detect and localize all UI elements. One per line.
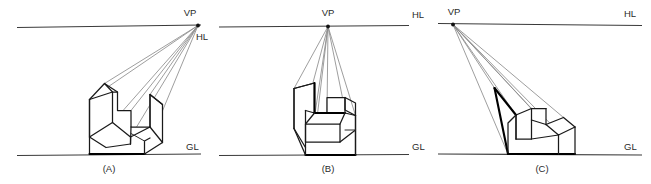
stepped-block-c bbox=[495, 88, 576, 154]
stepped-block-b bbox=[294, 83, 356, 155]
panel-caption-c: (C) bbox=[535, 163, 548, 174]
perspective-figure: VP HL GL (A) bbox=[0, 0, 651, 184]
stepped-block-a bbox=[90, 84, 163, 155]
gl-label-b: GL bbox=[412, 141, 425, 152]
panel-a: VP HL GL (A) bbox=[0, 0, 213, 184]
hl-label-b: HL bbox=[412, 9, 424, 20]
vp-label-c: VP bbox=[448, 6, 461, 17]
vanishing-point-dot-c bbox=[451, 23, 455, 27]
vanishing-point-dot-b bbox=[326, 25, 330, 29]
vanishing-point-dot-a bbox=[196, 24, 200, 28]
hl-label-a: HL bbox=[196, 31, 208, 42]
horizon-line-c bbox=[438, 24, 642, 26]
panel-b: VP HL GL (B) bbox=[219, 0, 430, 184]
gl-label-c: GL bbox=[624, 141, 637, 152]
panel-caption-b: (B) bbox=[322, 163, 335, 174]
panel-c: VP HL GL (C) bbox=[434, 0, 651, 184]
horizon-line-a bbox=[17, 25, 201, 28]
vp-label-b: VP bbox=[322, 7, 335, 18]
vp-label-a: VP bbox=[184, 7, 197, 18]
hl-label-c: HL bbox=[624, 8, 636, 19]
gl-label-a: GL bbox=[186, 141, 199, 152]
horizon-line-b bbox=[219, 26, 409, 28]
panel-caption-a: (A) bbox=[103, 163, 116, 174]
